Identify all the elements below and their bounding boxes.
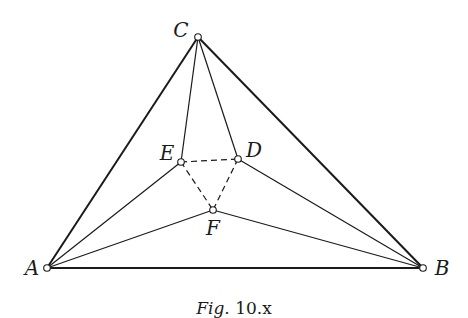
point-c-label: C xyxy=(173,20,188,40)
point-c-marker xyxy=(195,34,202,41)
segment-bd xyxy=(238,159,423,268)
caption-number: 10.x xyxy=(235,298,272,318)
inner-lines xyxy=(47,37,423,268)
point-d-marker xyxy=(235,156,242,163)
figure-caption: Fig. 10.x xyxy=(196,300,272,317)
dashed-triangle xyxy=(181,159,238,210)
segment-ca xyxy=(47,37,198,268)
segment-cd xyxy=(198,37,238,159)
point-a-label: A xyxy=(25,258,39,278)
point-a-marker xyxy=(44,265,51,272)
point-b-label: B xyxy=(435,258,450,278)
point-f-marker xyxy=(210,207,217,214)
point-f-label: F xyxy=(206,218,220,238)
point-e-marker xyxy=(178,159,185,166)
point-d-label: D xyxy=(246,140,262,160)
segment-ef xyxy=(181,162,213,210)
segment-af xyxy=(47,210,213,268)
outer-triangle xyxy=(47,37,423,268)
point-b-marker xyxy=(420,265,427,272)
segment-bf xyxy=(213,210,423,268)
segment-ed xyxy=(181,159,238,162)
segment-ae xyxy=(47,162,181,268)
segment-df xyxy=(213,159,238,210)
caption-prefix: Fig. xyxy=(196,298,230,318)
point-e-label: E xyxy=(160,143,175,163)
segment-bc xyxy=(198,37,423,268)
segment-ce xyxy=(181,37,198,162)
